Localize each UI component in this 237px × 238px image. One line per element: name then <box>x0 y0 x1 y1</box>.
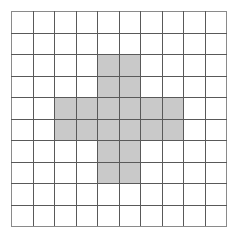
grid-cell-empty <box>119 33 141 55</box>
grid-cell-empty <box>162 205 184 227</box>
grid-cell-shaded <box>119 98 141 120</box>
grid-cell-empty <box>55 205 77 227</box>
grid-cell-empty <box>162 76 184 98</box>
grid-cell-empty <box>184 33 206 55</box>
grid-cell-empty <box>12 141 34 163</box>
grid-cell-empty <box>205 205 227 227</box>
grid-cell-empty <box>162 33 184 55</box>
grid-cell-empty <box>98 33 120 55</box>
grid-cell-empty <box>184 76 206 98</box>
grid-cell-empty <box>76 162 98 184</box>
grid-cell-empty <box>55 162 77 184</box>
grid-cell-empty <box>205 76 227 98</box>
grid-row <box>12 205 227 227</box>
grid-cell-empty <box>12 98 34 120</box>
grid-cell-empty <box>98 205 120 227</box>
grid-cell-empty <box>33 162 55 184</box>
grid-cell-empty <box>141 184 163 206</box>
grid-cell-empty <box>55 76 77 98</box>
grid-cell-empty <box>12 33 34 55</box>
grid-cell-empty <box>141 55 163 77</box>
grid-row <box>12 76 227 98</box>
grid-cell-empty <box>184 205 206 227</box>
grid-cell-empty <box>55 55 77 77</box>
grid-cell-empty <box>184 12 206 34</box>
grid-cell-empty <box>205 98 227 120</box>
grid-cell-shaded <box>98 55 120 77</box>
grid-body <box>12 12 227 227</box>
grid-cell-empty <box>98 12 120 34</box>
grid-row <box>12 184 227 206</box>
grid-cell-empty <box>184 162 206 184</box>
grid-cell-empty <box>55 12 77 34</box>
grid-cell-empty <box>98 184 120 206</box>
grid-cell-empty <box>55 184 77 206</box>
grid-cell-shaded <box>98 119 120 141</box>
grid-cell-empty <box>33 55 55 77</box>
grid-cell-empty <box>119 12 141 34</box>
grid-row <box>12 55 227 77</box>
grid-cell-empty <box>76 33 98 55</box>
grid-cell-empty <box>55 33 77 55</box>
grid-cell-empty <box>33 33 55 55</box>
grid-cell-empty <box>162 55 184 77</box>
grid-cell-shaded <box>76 98 98 120</box>
grid-cell-shaded <box>119 141 141 163</box>
grid-cell-empty <box>162 12 184 34</box>
grid-cell-empty <box>162 162 184 184</box>
grid-cell-empty <box>12 119 34 141</box>
grid-canvas <box>11 11 226 226</box>
grid-cell-empty <box>162 184 184 206</box>
grid-cell-empty <box>33 141 55 163</box>
grid-cell-empty <box>141 33 163 55</box>
grid-cell-empty <box>33 98 55 120</box>
grid-cell-shaded <box>119 76 141 98</box>
grid-cell-empty <box>33 119 55 141</box>
grid-cell-shaded <box>55 119 77 141</box>
grid-cell-shaded <box>76 119 98 141</box>
grid-cell-empty <box>141 141 163 163</box>
grid-cell-empty <box>141 205 163 227</box>
grid-cell-empty <box>33 76 55 98</box>
grid-cell-shaded <box>98 162 120 184</box>
grid-cell-empty <box>119 205 141 227</box>
grid-cell-shaded <box>98 76 120 98</box>
grid-row <box>12 98 227 120</box>
grid-row <box>12 12 227 34</box>
grid-cell-empty <box>205 184 227 206</box>
grid-cell-empty <box>12 12 34 34</box>
grid-cell-empty <box>76 141 98 163</box>
grid-cell-shaded <box>119 55 141 77</box>
grid-cell-empty <box>184 55 206 77</box>
grid-cell-empty <box>76 12 98 34</box>
grid-cell-empty <box>205 55 227 77</box>
grid-row <box>12 119 227 141</box>
grid-cell-shaded <box>162 98 184 120</box>
grid-cell-shaded <box>141 98 163 120</box>
grid-cell-shaded <box>98 98 120 120</box>
grid-cell-empty <box>162 141 184 163</box>
grid-cell-empty <box>76 55 98 77</box>
grid-cell-empty <box>33 205 55 227</box>
grid-cell-empty <box>141 162 163 184</box>
grid-cell-empty <box>33 12 55 34</box>
grid-row <box>12 141 227 163</box>
grid-cell-shaded <box>141 119 163 141</box>
grid-cell-empty <box>141 76 163 98</box>
grid-cell-empty <box>12 184 34 206</box>
grid-cell-empty <box>76 76 98 98</box>
grid-cell-empty <box>205 162 227 184</box>
grid-cell-shaded <box>119 162 141 184</box>
grid-cell-empty <box>205 141 227 163</box>
grid-cell-empty <box>12 162 34 184</box>
grid-table <box>11 11 227 227</box>
grid-cell-shaded <box>119 119 141 141</box>
grid-cell-empty <box>55 141 77 163</box>
grid-cell-shaded <box>162 119 184 141</box>
grid-cell-empty <box>119 184 141 206</box>
grid-cell-empty <box>205 33 227 55</box>
grid-cell-empty <box>184 184 206 206</box>
grid-figure <box>0 0 237 238</box>
grid-cell-empty <box>205 119 227 141</box>
grid-cell-empty <box>12 205 34 227</box>
